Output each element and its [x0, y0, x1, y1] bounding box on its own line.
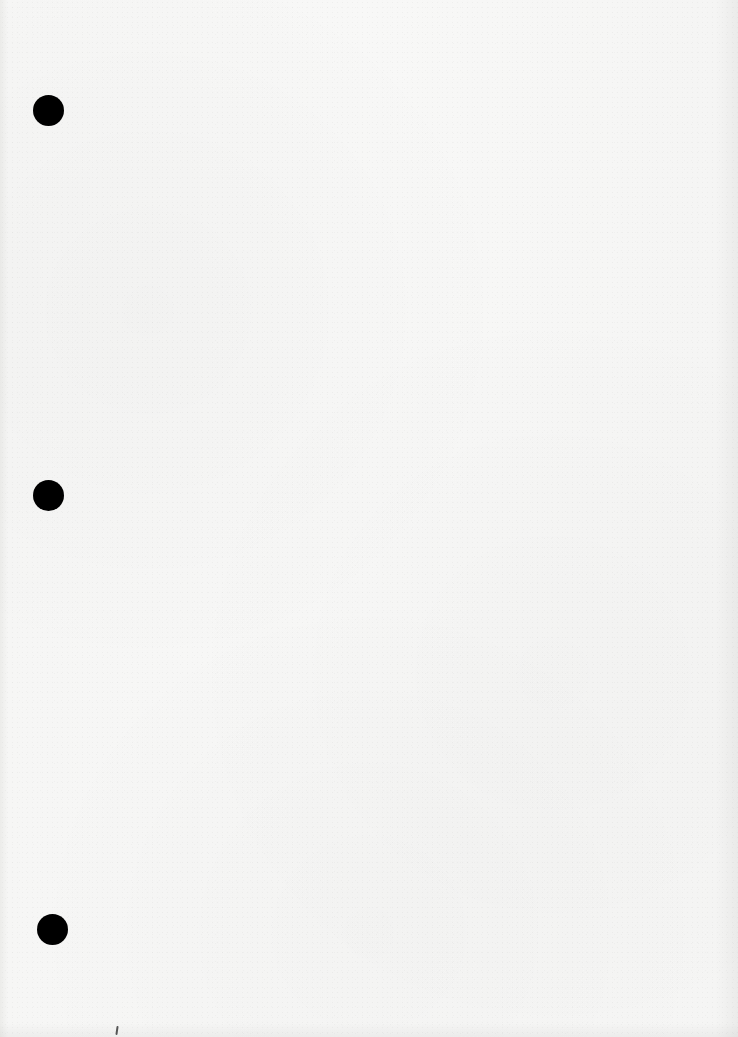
page-body-text — [80, 40, 698, 997]
punch-hole-bottom — [37, 914, 68, 945]
punch-hole-middle — [33, 480, 64, 511]
paper-sheet — [0, 0, 738, 1037]
paper-speck-mark — [115, 1026, 118, 1035]
punch-hole-top — [33, 95, 64, 126]
